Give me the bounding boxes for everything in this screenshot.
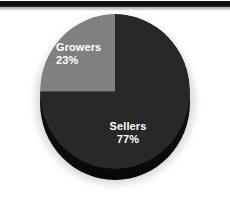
pie-label-sellers-percent: 77% — [93, 134, 163, 146]
pie-label-growers: Growers 23% — [56, 42, 130, 66]
pie-label-growers-percent: 23% — [56, 55, 130, 67]
pie-chart-figure: Growers 23% Sellers 77% — [0, 0, 230, 199]
page-edge-fade — [0, 7, 230, 11]
pie-top-face — [40, 14, 190, 169]
pie-chart: Growers 23% Sellers 77% — [40, 14, 190, 180]
pie-label-sellers-name: Sellers — [110, 120, 147, 132]
pie-label-growers-name: Growers — [56, 41, 101, 53]
pie-slices-svg — [40, 14, 190, 169]
pie-label-sellers: Sellers 77% — [93, 121, 163, 145]
